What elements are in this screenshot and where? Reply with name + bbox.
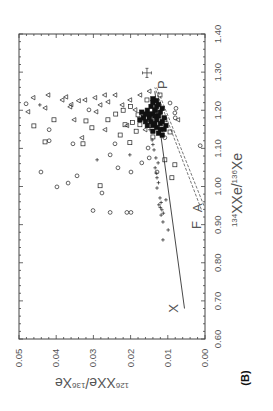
- circles-point: [87, 108, 91, 112]
- y-tick-label: 0.04: [50, 349, 61, 368]
- triangles-point: [31, 95, 35, 99]
- squares-point: [106, 118, 110, 122]
- plus-point: [155, 176, 159, 180]
- triangles-point: [93, 95, 97, 99]
- plus-point: [153, 166, 157, 170]
- x-tick-label-text: 0.60: [212, 330, 223, 349]
- plus-point: [161, 220, 165, 224]
- squares-point: [130, 120, 134, 124]
- x-tick-label-text: 1.40: [212, 25, 223, 44]
- x-tick-label: 1.30: [212, 63, 223, 82]
- x-tick-label: 0.60: [212, 330, 223, 349]
- mixing-line-FA-1: [155, 87, 202, 209]
- squares-point: [129, 104, 133, 108]
- axis-ticks: [19, 34, 205, 339]
- triangles-point: [138, 93, 142, 97]
- triangles-point: [143, 127, 147, 131]
- plus-point: [159, 213, 163, 217]
- plus-point: [95, 158, 99, 162]
- squares-point: [170, 176, 174, 180]
- triangles-point: [83, 98, 87, 102]
- y-tick-label: 0.02: [125, 349, 136, 368]
- circles-point: [125, 211, 129, 215]
- y-tick-label-text: 0.05: [13, 349, 24, 368]
- x-tick-label: 1.20: [212, 101, 223, 120]
- y-tick-label: 0.03: [87, 349, 98, 368]
- squares-point: [81, 142, 85, 146]
- triangles-point: [60, 98, 64, 102]
- squares-point: [43, 140, 47, 144]
- plot-frame: [19, 34, 205, 339]
- circles-point: [174, 106, 178, 110]
- squares-point: [98, 184, 102, 188]
- triangles-point: [113, 93, 117, 97]
- circles-point: [113, 142, 117, 146]
- circles-point: [140, 161, 144, 165]
- dense-cluster-point: [164, 123, 168, 127]
- x-tick-label-text: 1.00: [212, 177, 223, 196]
- y-tick-label-text: 0.04: [50, 349, 61, 368]
- squares-point: [121, 108, 125, 112]
- circles-point: [66, 181, 70, 185]
- x-tick-label: 1.40: [212, 25, 223, 44]
- annotation-text: F: [189, 221, 204, 229]
- circles-point: [75, 174, 79, 178]
- dense-cluster-point: [153, 114, 157, 118]
- x-tick-label: 0.70: [212, 292, 223, 311]
- y-tick-label-text: 0.00: [199, 349, 210, 368]
- plot-frame-rect: [19, 34, 205, 339]
- triangles-point: [120, 103, 124, 107]
- squares-point: [114, 112, 118, 116]
- x-tick-label-text: 0.90: [212, 215, 223, 234]
- x-tick-label: 0.90: [212, 215, 223, 234]
- plus-point: [128, 153, 132, 157]
- x-tick-label: 1.00: [212, 177, 223, 196]
- circles-point: [47, 128, 51, 132]
- triangles-point: [46, 93, 50, 97]
- plus-point: [157, 181, 161, 185]
- panel-label: (B): [239, 370, 251, 386]
- triangles-point: [76, 99, 80, 103]
- svg-text:126XXe/136Xe: 126XXe/136Xe: [55, 375, 129, 391]
- plus-point: [162, 211, 166, 215]
- triangles-point: [98, 103, 102, 107]
- plus-point: [159, 201, 163, 205]
- squares-point: [145, 98, 149, 102]
- plus-point: [154, 156, 158, 160]
- triangles-point: [72, 118, 76, 122]
- squares-point: [84, 119, 88, 123]
- squares-point: [163, 158, 167, 162]
- circles-point: [108, 211, 112, 215]
- triangles-point: [147, 89, 151, 93]
- x-tick-label: 1.10: [212, 139, 223, 158]
- plus-point: [161, 238, 165, 242]
- x-tick-label-text: 0.80: [212, 254, 223, 273]
- triangles-point: [133, 108, 137, 112]
- triangles-point: [103, 127, 107, 131]
- circles-point: [173, 111, 177, 115]
- x-tick-label-text: 1.10: [212, 139, 223, 158]
- x-tick-label-text: 1.20: [212, 101, 223, 120]
- circles-point: [100, 191, 104, 195]
- y-tick-label-text: 0.02: [125, 349, 136, 368]
- y-axis-tick-labels: 0.000.010.020.030.040.05: [13, 349, 210, 368]
- plus-point: [38, 103, 42, 107]
- dense-cluster-point: [153, 121, 157, 125]
- svg-text:(B): (B): [239, 370, 251, 386]
- plus-point: [152, 148, 156, 152]
- circles-point: [129, 211, 133, 215]
- y-tick-label: 0.01: [162, 349, 173, 368]
- y-tick-label: 0.05: [13, 349, 24, 368]
- circles-point: [147, 156, 151, 160]
- annotation-text: A: [190, 203, 205, 212]
- dense-cluster-point: [151, 97, 155, 101]
- squares-point: [52, 118, 56, 122]
- annotation-text: P: [155, 80, 170, 89]
- annotations: XFAP: [155, 80, 205, 312]
- x-tick-label: 0.80: [212, 254, 223, 273]
- scatter-chart: 0.600.700.800.901.001.101.201.301.40 0.0…: [0, 0, 273, 411]
- data-points: [24, 89, 202, 242]
- x-axis-label: 134XXe/136Xe: [229, 153, 245, 227]
- squares-point: [32, 124, 36, 128]
- mixing-line-FA-2: [157, 87, 204, 205]
